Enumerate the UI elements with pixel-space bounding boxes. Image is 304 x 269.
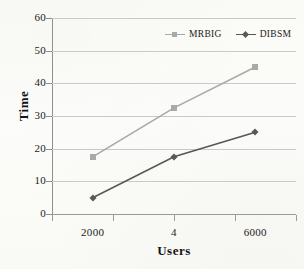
y-tick-label: 20 xyxy=(6,143,46,154)
y-tick-label: 40 xyxy=(6,77,46,88)
series-line-mrbig xyxy=(93,67,256,157)
legend-swatch-icon xyxy=(236,30,256,39)
y-tick-label: 0 xyxy=(6,208,46,219)
y-tick-label: 50 xyxy=(6,45,46,56)
x-tick-label: 6000 xyxy=(225,226,285,238)
x-tick-mark xyxy=(52,215,53,221)
legend-label: DIBSM xyxy=(260,29,292,39)
x-tick-label: 4 xyxy=(144,226,204,238)
x-tick-mark xyxy=(235,215,236,221)
legend-marker-icon xyxy=(242,30,249,37)
y-tick-label: 60 xyxy=(6,12,46,23)
y-tick-label: 30 xyxy=(6,110,46,121)
x-tick-mark xyxy=(296,215,297,221)
data-point-mrbig xyxy=(90,154,96,160)
legend-entry-mrbig: MRBIG xyxy=(165,29,222,39)
x-tick-mark xyxy=(174,215,175,221)
legend-marker-icon xyxy=(172,32,177,37)
legend-swatch-icon xyxy=(165,30,185,39)
plot-area xyxy=(52,18,296,214)
data-point-mrbig xyxy=(252,64,258,70)
y-tick-label: 10 xyxy=(6,175,46,186)
x-tick-label: 2000 xyxy=(63,226,123,238)
legend-entry-dibsm: DIBSM xyxy=(236,29,292,39)
x-axis-title: Users xyxy=(52,243,296,259)
x-tick-mark xyxy=(113,215,114,221)
series-lines xyxy=(52,18,296,214)
chart-screenshot: Time 0102030405060 200046000 MRBIGDIBSM … xyxy=(0,0,304,269)
legend-label: MRBIG xyxy=(189,29,222,39)
chart-legend: MRBIGDIBSM xyxy=(165,29,291,39)
data-point-mrbig xyxy=(171,105,177,111)
